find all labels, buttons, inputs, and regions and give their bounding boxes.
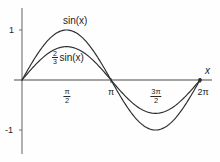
x-tick-label-2pi: 2π bbox=[197, 88, 208, 97]
curve-label-two-thirds-sin-x: 2 3 sin(x) bbox=[52, 50, 84, 65]
pi-over-2-fraction: π 2 bbox=[63, 88, 70, 104]
endpoint-marker bbox=[198, 78, 202, 82]
three-pi-over-2-numerator: 3π bbox=[150, 88, 161, 96]
three-pi-over-2-fraction: 3π 2 bbox=[150, 88, 161, 104]
coefficient-denominator: 3 bbox=[52, 57, 58, 65]
x-tick-label-pi: π bbox=[108, 88, 114, 97]
three-pi-over-2-denominator: 2 bbox=[150, 96, 161, 105]
y-tick-label-one: 1 bbox=[9, 26, 14, 35]
pi-over-2-numerator: π bbox=[63, 88, 70, 96]
plot-canvas bbox=[0, 0, 220, 162]
x-tick-label-3pi-over-2: 3π 2 bbox=[150, 88, 161, 104]
y-tick-label-minus-one: -1 bbox=[5, 126, 13, 135]
sine-plot: sin(x) 2 3 sin(x) 1 -1 π 2 π 3π 2 2π x bbox=[0, 0, 220, 162]
pi-over-2-denominator: 2 bbox=[63, 96, 70, 105]
coefficient-numerator: 2 bbox=[52, 50, 58, 57]
curve-label-sin-x: sin(x) bbox=[63, 16, 87, 26]
inner-curve-function: sin(x) bbox=[59, 53, 83, 63]
coefficient-fraction: 2 3 bbox=[52, 50, 58, 65]
x-tick-label-pi-over-2: π 2 bbox=[63, 88, 70, 104]
x-axis-label: x bbox=[205, 66, 210, 76]
